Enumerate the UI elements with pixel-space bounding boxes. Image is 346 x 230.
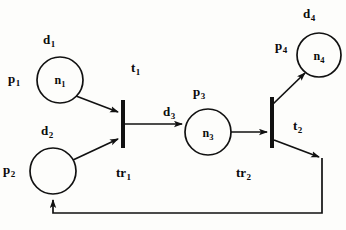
label-p1: p1 xyxy=(8,72,20,85)
label-t1: t1 xyxy=(131,61,140,74)
label-tr1: tr1 xyxy=(116,166,131,179)
label-d4: d4 xyxy=(303,7,315,20)
arc-tr2-to-p4 xyxy=(272,73,305,105)
label-d1: d1 xyxy=(43,33,55,46)
label-p3: p3 xyxy=(193,85,205,98)
petri-net-diagram: d1 p1 n1 d2 p2 t1 tr1 d3 p3 n3 tr2 t2 d4… xyxy=(0,0,346,230)
label-d2: d2 xyxy=(41,124,53,137)
label-d3: d3 xyxy=(163,105,175,118)
label-p2: p2 xyxy=(3,163,15,176)
label-t2: t2 xyxy=(293,119,302,132)
arc-p1-to-tr1 xyxy=(76,96,118,112)
place-p2 xyxy=(30,148,76,194)
label-p4: p4 xyxy=(275,39,287,52)
label-tr2: tr2 xyxy=(236,166,251,179)
arc-tr2-to-feedback xyxy=(274,140,319,157)
label-n4: n4 xyxy=(314,50,325,62)
arc-feedback-to-p2 xyxy=(53,158,322,213)
arc-p2-to-tr1 xyxy=(73,139,118,160)
label-n1: n1 xyxy=(55,74,66,86)
label-n3: n3 xyxy=(203,127,214,139)
